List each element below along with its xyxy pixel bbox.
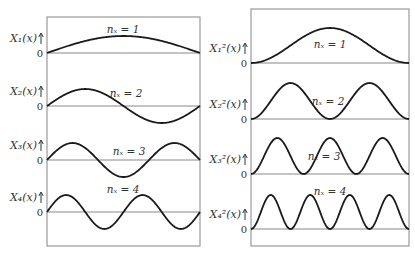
left-panel-row-4: X₄(x)0nₓ = 4 [9,183,200,229]
up-arrow-icon [243,209,247,220]
y-axis-label: X₂(x) [9,85,37,98]
left-panel-row-3: X₃(x)0nₓ = 3 [9,139,200,177]
up-arrow-icon [39,86,43,97]
left-panel-row-1: X₁(x)0nₓ = 1 [9,23,200,59]
quantum-number-label: nₓ = 2 [312,95,345,107]
wavefunction-figure: X₁(x)0nₓ = 1X₂(x)0nₓ = 2X₃(x)0nₓ = 3X₄(x… [0,0,415,256]
quantum-number-label: nₓ = 1 [107,23,140,35]
y-axis-label: X₄(x) [9,191,37,204]
right-panel: X₁²(x)0nₓ = 1X₂²(x)0nₓ = 2X₃²(x)0nₓ = 3X… [209,9,409,246]
right-panel-row-4: X₄²(x)0nₓ = 4 [209,185,409,235]
up-arrow-icon [243,99,247,110]
zero-label: 0 [37,101,43,112]
zero-label: 0 [241,224,247,235]
right-panel-row-2: X₂²(x)0nₓ = 2 [209,83,409,125]
up-arrow-icon [39,140,43,151]
left-panel: X₁(x)0nₓ = 1X₂(x)0nₓ = 2X₃(x)0nₓ = 3X₄(x… [9,17,200,246]
quantum-number-label: nₓ = 3 [308,150,341,162]
up-arrow-icon [243,43,247,54]
quantum-number-label: nₓ = 4 [314,185,347,197]
right-panel-row-3: X₃²(x)0nₓ = 3 [209,138,409,180]
zero-label: 0 [37,48,43,59]
y-axis-label: X₁²(x) [209,42,241,55]
up-arrow-icon [39,33,43,44]
y-axis-label: X₁(x) [9,32,37,45]
quantum-number-label: nₓ = 4 [107,183,140,195]
y-axis-label: X₄²(x) [209,208,241,221]
zero-label: 0 [241,58,247,69]
y-axis-label: X₂²(x) [209,98,241,111]
quantum-number-label: nₓ = 1 [314,38,347,50]
zero-label: 0 [37,207,43,218]
y-axis-label: X₃²(x) [209,153,241,166]
up-arrow-icon [39,192,43,203]
probability-density-curve [251,195,409,229]
left-panel-row-2: X₂(x)0nₓ = 2 [9,85,200,123]
quantum-number-label: nₓ = 2 [110,87,143,99]
zero-label: 0 [241,114,247,125]
zero-label: 0 [37,155,43,166]
right-panel-row-1: X₁²(x)0nₓ = 1 [209,28,409,69]
zero-label: 0 [241,169,247,180]
up-arrow-icon [243,154,247,165]
wavefunction-curve [47,36,200,53]
quantum-number-label: nₓ = 3 [113,145,146,157]
y-axis-label: X₃(x) [9,139,37,152]
